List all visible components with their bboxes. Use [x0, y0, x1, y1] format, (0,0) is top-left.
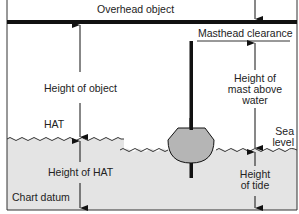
sea-level-line2: level [272, 137, 294, 148]
height-of-tide-label: Height of tide [234, 169, 276, 191]
height-of-object-label: Height of object [44, 83, 117, 94]
overhead-object-bar [7, 20, 297, 24]
masthead-clearance-label: Masthead clearance [198, 28, 293, 39]
height-of-tide-line2: of tide [234, 180, 276, 191]
hat-label: HAT [44, 119, 64, 130]
boat-hull [168, 128, 214, 163]
height-of-mast-label: Height of mast above water [224, 73, 286, 106]
height-of-mast-line3: water [224, 95, 286, 106]
overhead-object-label: Overhead object [97, 4, 174, 15]
height-of-hat-label: Height of HAT [48, 167, 113, 178]
mast-over-hull [190, 118, 194, 130]
chart-datum-label: Chart datum [12, 192, 70, 203]
sea-level-label: Sea level [272, 126, 294, 148]
